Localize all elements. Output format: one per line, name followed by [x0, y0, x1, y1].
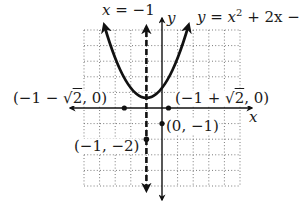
vertex-label: (−1, −2) [74, 139, 139, 154]
x-axis-label: x [249, 110, 257, 125]
vertex-point [144, 136, 150, 142]
y-intercept-label: (0, −1) [166, 119, 219, 134]
axis-of-symmetry-label: x = −1 [101, 3, 156, 18]
eq-xvar: x [228, 8, 236, 26]
axis-eq-rest: = −1 [110, 1, 154, 19]
y-axis-label: y [167, 11, 175, 26]
eq-rest: + 2x − [242, 8, 299, 26]
left-root-label: (−1 − √2, 0) [13, 91, 107, 106]
equation-label: y = x2 + 2x − [197, 10, 300, 25]
right-root-label: (−1 + √2, 0) [175, 91, 269, 106]
eq-equals: = [205, 8, 227, 26]
graph-figure: x = −1 y y = x2 + 2x − (−1 − √2, 0) (−1 … [0, 0, 300, 204]
right-root-point [166, 105, 171, 110]
left-root-point [122, 105, 127, 110]
y-intercept-point [159, 121, 164, 126]
